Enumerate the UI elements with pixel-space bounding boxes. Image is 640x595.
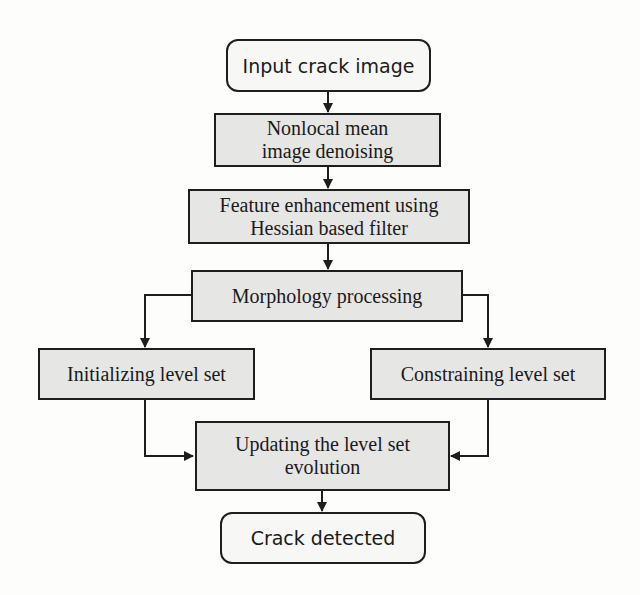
node-label: Feature enhancement using Hessian based … bbox=[220, 194, 439, 240]
node-label: Input crack image bbox=[243, 55, 415, 77]
node-label: Initializing level set bbox=[67, 363, 226, 386]
node-label: Updating the level set evolution bbox=[235, 433, 410, 479]
node-morphology-processing: Morphology processing bbox=[191, 270, 463, 322]
edge-constrain-to-update bbox=[451, 400, 488, 456]
node-hessian-feature-enhancement: Feature enhancement using Hessian based … bbox=[188, 189, 470, 244]
edge-init-to-update bbox=[145, 400, 193, 456]
node-initializing-level-set: Initializing level set bbox=[38, 348, 255, 400]
edge-morph-to-init bbox=[145, 295, 191, 347]
node-updating-level-set-evolution: Updating the level set evolution bbox=[195, 421, 450, 491]
edge-morph-to-constrain bbox=[462, 295, 488, 347]
node-label: Constraining level set bbox=[401, 363, 575, 386]
node-crack-detected: Crack detected bbox=[220, 512, 426, 564]
node-label: Morphology processing bbox=[232, 285, 423, 308]
node-label: Nonlocal mean image denoising bbox=[262, 117, 394, 163]
node-constraining-level-set: Constraining level set bbox=[370, 348, 606, 400]
node-input-crack-image: Input crack image bbox=[226, 39, 431, 92]
node-label: Crack detected bbox=[251, 527, 396, 549]
node-nonlocal-mean-denoising: Nonlocal mean image denoising bbox=[214, 113, 441, 167]
